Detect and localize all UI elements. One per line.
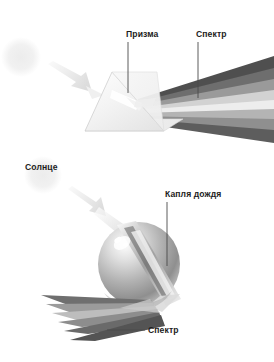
- label-spectrum-bottom: Спектр: [148, 325, 179, 336]
- label-sun: Солнце: [25, 162, 58, 173]
- light-ray-arrow-icon: [48, 61, 104, 99]
- dispersion-diagram: Призма Спектр Солнце Капля дождя Спектр: [0, 0, 274, 362]
- label-raindrop: Капля дождя: [165, 189, 221, 200]
- sun-icon: [1, 37, 41, 77]
- light-ray-arrow-icon: [68, 186, 126, 233]
- diagram-canvas: [0, 0, 274, 362]
- label-spectrum-top: Спектр: [196, 29, 227, 40]
- label-prism: Призма: [126, 29, 158, 40]
- spectrum-fan: [41, 295, 165, 341]
